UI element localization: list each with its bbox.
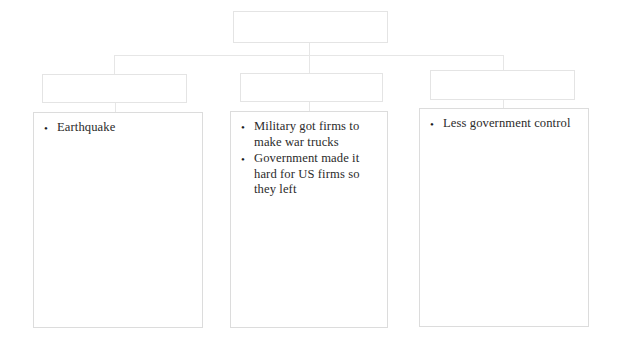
- connector-bus-to-branch-3: [503, 55, 504, 70]
- branch-2-detail-node[interactable]: Military got firms to make war trucks Go…: [230, 111, 388, 328]
- list-item: Less government control: [429, 116, 581, 132]
- connector-branch-1-to-detail: [115, 103, 116, 112]
- connector-bus-to-branch-1: [114, 55, 115, 74]
- connector-branch-2-to-detail: [309, 102, 310, 111]
- root-node[interactable]: [233, 11, 388, 43]
- branch-1-header-node[interactable]: [42, 74, 187, 103]
- branch-1-bullet-list: Earthquake: [43, 120, 195, 137]
- branch-3-bullet-list: Less government control: [429, 116, 581, 133]
- diagram-canvas: Earthquake Military got firms to make wa…: [0, 0, 619, 342]
- branch-3-header-node[interactable]: [430, 70, 575, 100]
- connector-bus-to-branch-2: [309, 55, 310, 73]
- branch-1-detail-node[interactable]: Earthquake: [33, 112, 203, 328]
- list-item: Government made it hard for US firms so …: [240, 151, 380, 198]
- branch-2-header-node[interactable]: [240, 73, 383, 102]
- branch-2-bullet-list: Military got firms to make war trucks Go…: [240, 119, 380, 199]
- branch-3-detail-node[interactable]: Less government control: [419, 108, 589, 327]
- list-item: Military got firms to make war trucks: [240, 119, 380, 150]
- list-item: Earthquake: [43, 120, 195, 136]
- connector-branch-3-to-detail: [503, 100, 504, 108]
